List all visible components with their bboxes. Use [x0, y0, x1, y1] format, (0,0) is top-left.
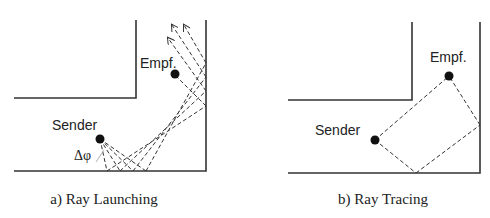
angle-arc	[96, 150, 104, 162]
outer-corner-wall	[288, 22, 480, 173]
inner-corner-wall	[288, 22, 412, 100]
sender-dot	[371, 136, 380, 145]
caption-a: a) Ray Launching	[50, 191, 158, 208]
caption-b: b) Ray Tracing	[338, 191, 429, 208]
panel-ray-tracing: Sender Empf. b) Ray Tracing	[288, 22, 480, 208]
sender-dot	[96, 135, 105, 144]
sender-label: Sender	[315, 122, 360, 138]
receiver-label: Empf.	[140, 55, 177, 71]
panel-ray-launching: Sender Empf. Δφ a) Ray Launching	[14, 20, 206, 208]
sender-label: Sender	[52, 117, 97, 133]
traced-paths	[375, 76, 480, 173]
angle-label: Δφ	[74, 148, 91, 163]
receiver-label: Empf.	[430, 49, 467, 65]
inner-corner-wall	[14, 20, 136, 98]
ray-methods-diagram: Sender Empf. Δφ a) Ray Launching Sender …	[0, 0, 490, 218]
receiver-dot	[445, 72, 454, 81]
